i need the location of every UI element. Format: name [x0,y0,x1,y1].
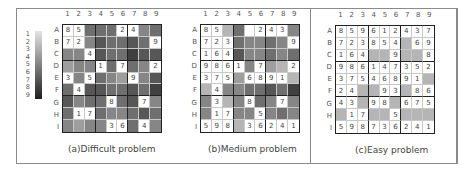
row-label: I [324,122,332,134]
sudoku-cell: 6 [423,85,434,97]
sudoku-cell [117,108,128,120]
sudoku-cell: 6 [117,120,128,132]
panel-easy: 123456789 ABCDEFGHI 85961243772385469164… [310,8,458,164]
sudoku-cell: 8 [245,96,256,108]
sudoku-cell: 8 [223,120,234,132]
sudoku-cell [380,50,391,62]
column-label: 7 [129,10,140,18]
sudoku-cell [63,96,74,108]
column-label: 9 [289,10,300,18]
sudoku-cell [128,49,139,61]
row-label: I [189,121,197,133]
sudoku-cell: 9 [212,120,223,132]
sudoku-cell: 4 [85,49,96,61]
row-labels: ABCDEFGHI [324,25,332,134]
row-label: E [189,72,197,84]
sudoku-cell [150,25,161,37]
column-label: 7 [267,10,278,18]
sudoku-cell [266,49,277,61]
sudoku-cell: 2 [266,120,277,132]
column-label: 6 [255,10,266,18]
column-labels: 123456789 [200,10,300,18]
column-label: 2 [346,11,357,19]
panel-medium: 123456789 ABCDEFGHI 85243723916498617237… [162,8,310,164]
sudoku-cell [234,25,245,37]
sudoku-cell [369,109,380,121]
sudoku-cell: 8 [212,61,223,73]
column-label: 5 [106,10,117,18]
sudoku-cell: 4 [390,38,401,50]
sudoku-cell: 3 [358,38,369,50]
sudoku-cell: 2 [74,37,85,49]
sudoku-cell: 7 [390,62,401,74]
sudoku-cell [277,37,288,49]
sudoku-cell [150,49,161,61]
column-label: 1 [62,10,73,18]
sudoku-cell: 7 [347,74,358,86]
sudoku-cell [266,84,277,96]
sudoku-cell: 2 [288,61,299,73]
sudoku-cell [245,84,256,96]
sudoku-cell: 1 [288,120,299,132]
sudoku-cell: 5 [212,25,223,37]
sudoku-cell: 7 [358,109,369,121]
column-labels: 123456789 [62,10,162,18]
sudoku-cell [128,96,139,108]
sudoku-cell [107,73,118,85]
sudoku-cell: 3 [277,25,288,37]
row-label: B [51,36,59,48]
sudoku-cell: 1 [96,61,107,73]
sudoku-cell [117,49,128,61]
row-label: C [324,49,332,61]
sudoku-cell: 7 [423,26,434,38]
caption-easy: (c)Easy problem [355,145,428,155]
sudoku-cell: 6 [358,62,369,74]
sudoku-cell [255,37,266,49]
sudoku-cell: 5 [390,109,401,121]
sudoku-board: 8524729417235948717364 [62,24,162,133]
sudoku-cell: 3 [201,73,212,85]
row-label: F [189,84,197,96]
sudoku-cell [423,109,434,121]
sudoku-cell: 5 [223,73,234,85]
sudoku-cell: 5 [255,108,266,120]
sudoku-cell: 3 [401,62,412,74]
sudoku-cell: 4 [380,62,391,74]
sudoku-cell [266,61,277,73]
sudoku-cell [266,37,277,49]
sudoku-cell [150,120,161,132]
row-label: F [51,84,59,96]
sudoku-cell [139,25,150,37]
row-label: F [324,85,332,97]
sudoku-cell: 9 [201,61,212,73]
sudoku-cell [223,84,234,96]
sudoku-cell [117,37,128,49]
sudoku-cell [234,120,245,132]
sudoku-cell [128,37,139,49]
sudoku-cell: 3 [245,120,256,132]
row-label: B [189,36,197,48]
sudoku-cell [234,73,245,85]
sudoku-cell [139,37,150,49]
sudoku-cell: 2 [150,61,161,73]
sudoku-cell [85,61,96,73]
sudoku-cell: 7 [369,121,380,133]
sudoku-cell [117,73,128,85]
sudoku-cell [234,84,245,96]
sudoku-cell: 5 [380,38,391,50]
column-label: 6 [117,10,128,18]
sudoku-cell: 4 [223,49,234,61]
sudoku-cell: 4 [401,26,412,38]
sudoku-cell [128,61,139,73]
sudoku-cell [85,120,96,132]
sudoku-cell: 9 [336,62,347,74]
sudoku-cell [96,120,107,132]
sudoku-cell [139,49,150,61]
sudoku-cell: 8 [201,25,212,37]
sudoku-cell: 8 [347,62,358,74]
column-label: 9 [424,11,435,19]
row-label: G [51,97,59,109]
row-label: I [51,121,59,133]
sudoku-cell: 7 [63,37,74,49]
sudoku-cell [63,49,74,61]
